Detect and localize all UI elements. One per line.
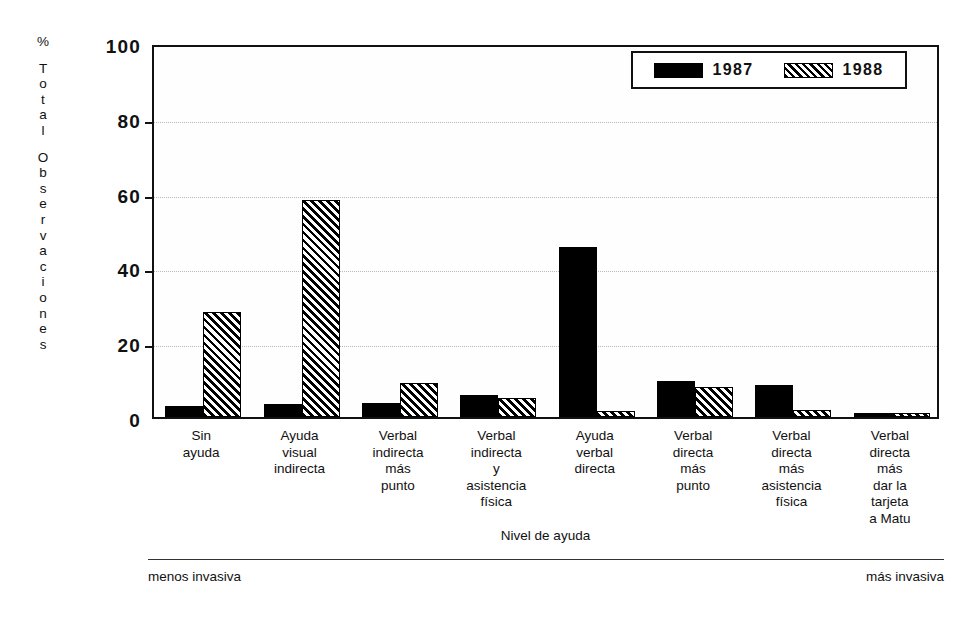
- category-label-line: Ayuda: [250, 428, 348, 445]
- category-label-line: tarjeta: [841, 494, 939, 511]
- bar-1988: [302, 200, 340, 417]
- category-label-line: dar la: [841, 478, 939, 495]
- y-axis-title-char: e: [26, 196, 60, 212]
- y-axis-title-char: a: [26, 107, 60, 123]
- x-axis-category-label: Verbaldirectamásdar latarjetaa Matu: [841, 428, 939, 528]
- y-axis-tick-label: 100: [106, 36, 141, 58]
- bar-group: [449, 47, 547, 417]
- x-axis-category-label: Verbaldirectamásasistenciafísica: [742, 428, 840, 511]
- category-label-line: física: [447, 494, 545, 511]
- y-axis-title-char: t: [26, 92, 60, 108]
- y-axis-tick-label: 0: [129, 410, 141, 432]
- x-axis-category-label: Verbalindirectayasistenciafísica: [447, 428, 545, 511]
- legend-swatch-1987: [654, 63, 703, 78]
- bar-group: [646, 47, 744, 417]
- bar-1988: [793, 410, 831, 417]
- bar-group: [154, 47, 252, 417]
- bar-group: [843, 47, 941, 417]
- category-label-line: física: [742, 494, 840, 511]
- category-label-line: más: [742, 461, 840, 478]
- x-axis-category-label: Sinayuda: [152, 428, 250, 461]
- y-axis-title-char: c: [26, 259, 60, 275]
- x-axis-category-label: Ayudaverbaldirecta: [546, 428, 644, 478]
- bar-1988: [400, 383, 438, 417]
- y-axis-title-char: v: [26, 228, 60, 244]
- bar-1988: [498, 398, 536, 417]
- legend-label-1988: 1988: [842, 61, 883, 79]
- bar-1987: [559, 247, 597, 417]
- category-label-line: y: [447, 461, 545, 478]
- legend-label-1987: 1987: [712, 61, 753, 79]
- y-axis-title-char: r: [26, 212, 60, 228]
- y-axis-title-char: s: [26, 181, 60, 197]
- y-axis-tick-label: 80: [117, 111, 141, 133]
- category-label-line: punto: [349, 478, 447, 495]
- y-axis-title-char: s: [26, 337, 60, 353]
- y-axis-tick-label: 40: [117, 260, 141, 282]
- y-axis-title-char: o: [26, 290, 60, 306]
- category-label-line: a Matu: [841, 511, 939, 528]
- bar-chart-figure: %TotalObservaciones 020406080100 1987198…: [0, 0, 976, 617]
- bar-1987: [854, 413, 892, 417]
- bar-1988: [203, 312, 241, 417]
- x-axis-category-label: Ayudavisualindirecta: [250, 428, 348, 478]
- y-axis-title-char: b: [26, 165, 60, 181]
- x-axis-category-label: Verbaldirectamáspunto: [644, 428, 742, 494]
- legend: 19871988: [631, 51, 907, 89]
- bars-layer: [154, 47, 937, 417]
- bar-1988: [695, 387, 733, 417]
- legend-swatch-1988: [784, 63, 833, 78]
- category-label-line: más: [644, 461, 742, 478]
- bar-1987: [264, 404, 302, 417]
- category-label-line: indirecta: [349, 445, 447, 462]
- bar-1987: [165, 406, 203, 417]
- category-label-line: asistencia: [742, 478, 840, 495]
- category-label-line: más: [349, 461, 447, 478]
- category-label-line: directa: [546, 461, 644, 478]
- x-axis-category-labels: SinayudaAyudavisualindirectaVerbalindire…: [152, 428, 939, 528]
- category-label-line: Verbal: [841, 428, 939, 445]
- category-label-line: Verbal: [349, 428, 447, 445]
- invasiveness-scale-left-label: menos invasiva: [148, 569, 241, 584]
- bar-1988: [597, 411, 635, 417]
- y-axis-tick-label: 60: [117, 186, 141, 208]
- category-label-line: punto: [644, 478, 742, 495]
- legend-entry: 1987: [654, 61, 753, 79]
- category-label-line: verbal: [546, 445, 644, 462]
- y-axis-title-char: i: [26, 274, 60, 290]
- legend-entry: 1988: [784, 61, 883, 79]
- y-axis-title-char: O: [26, 150, 60, 166]
- y-axis-tick-mark: [145, 271, 154, 273]
- plot-area: 020406080100: [152, 45, 939, 419]
- bar-1988: [892, 413, 930, 417]
- category-label-line: Verbal: [742, 428, 840, 445]
- bar-1987: [657, 381, 695, 417]
- y-axis-tick-mark: [145, 197, 154, 199]
- invasiveness-scale-rule: [148, 559, 944, 560]
- bar-group: [548, 47, 646, 417]
- category-label-line: Verbal: [447, 428, 545, 445]
- category-label-line: Verbal: [644, 428, 742, 445]
- x-axis-title: Nivel de ayuda: [152, 528, 939, 543]
- category-label-line: más: [841, 461, 939, 478]
- category-label-line: asistencia: [447, 478, 545, 495]
- category-label-line: visual: [250, 445, 348, 462]
- category-label-line: Sin: [152, 428, 250, 445]
- category-label-line: directa: [644, 445, 742, 462]
- category-label-line: indirecta: [250, 461, 348, 478]
- y-axis-tick-mark: [145, 346, 154, 348]
- category-label-line: directa: [742, 445, 840, 462]
- y-axis-title: %TotalObservaciones: [26, 34, 60, 352]
- bar-1987: [460, 395, 498, 417]
- y-axis-title-char: n: [26, 306, 60, 322]
- bar-group: [252, 47, 350, 417]
- bar-group: [351, 47, 449, 417]
- y-axis-title-char: %: [26, 34, 60, 50]
- bar-1987: [362, 403, 400, 417]
- category-label-line: ayuda: [152, 445, 250, 462]
- y-axis-tick-label: 20: [117, 335, 141, 357]
- y-axis-title-char: o: [26, 76, 60, 92]
- invasiveness-scale-right-label: más invasiva: [866, 569, 944, 584]
- x-axis-category-label: Verbalindirectamáspunto: [349, 428, 447, 494]
- category-label-line: indirecta: [447, 445, 545, 462]
